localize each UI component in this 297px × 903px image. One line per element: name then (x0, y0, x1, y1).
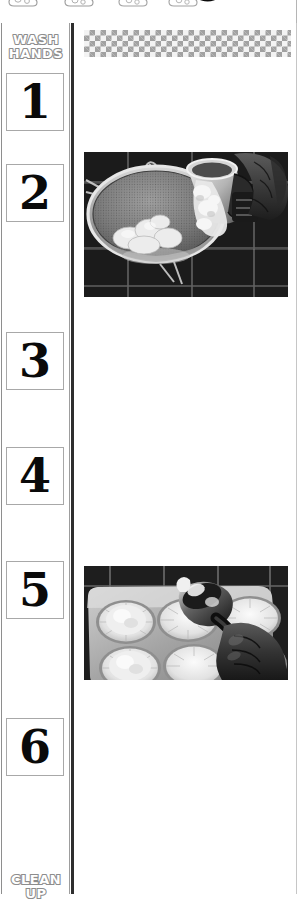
step-number-column: WASH WASH HANDS HANDS WASH HANDS 1 2 3 4… (0, 23, 72, 894)
svg-text:WASH: WASH (13, 32, 59, 47)
column-divider-hairline (69, 23, 70, 894)
step-number-6: 6 (7, 719, 63, 775)
bubble-shape-row: 5 (0, 0, 297, 22)
step-number-3: 3 (7, 333, 63, 389)
step-box-4[interactable]: 4 (6, 447, 64, 505)
soap-bubble-icon (116, 0, 150, 16)
soap-bubble-icon (62, 0, 96, 16)
step-box-5[interactable]: 5 (6, 561, 64, 619)
clean-up-heading: CLEAN CLEAN UP UP CLEAN UP (3, 869, 69, 903)
step-number-5: 5 (7, 562, 63, 618)
step-box-1[interactable]: 1 (6, 73, 64, 131)
step-content-column: Pouring from a measuring cup into a wire… (74, 23, 297, 894)
svg-text:UP: UP (25, 886, 46, 901)
top-cut-off-strip: 5 (0, 0, 297, 24)
top-strip-edge (296, 0, 297, 23)
svg-text:CLEAN: CLEAN (11, 872, 61, 887)
step-box-6[interactable]: 6 (6, 718, 64, 776)
top-step-number-cut-off: 5 (192, 0, 223, 10)
soap-bubble-icon (6, 0, 40, 16)
step-number-4: 4 (7, 448, 63, 504)
photo-strainer-step-2: Pouring from a measuring cup into a wire… (84, 152, 288, 297)
checkerboard-tile-band (84, 30, 291, 57)
recipe-board: WASH WASH HANDS HANDS WASH HANDS 1 2 3 4… (0, 23, 297, 894)
step-number-2: 2 (7, 165, 63, 221)
wash-hands-heading: WASH WASH HANDS HANDS WASH HANDS (3, 29, 69, 63)
photo-muffin-tin-step-5: Hand using an ice cream scoop to fill a … (84, 566, 288, 680)
step-box-3[interactable]: 3 (6, 332, 64, 390)
step-box-2[interactable]: 2 (6, 164, 64, 222)
step-number-1: 1 (7, 74, 63, 130)
right-column-edge (296, 23, 297, 894)
svg-text:HANDS: HANDS (9, 46, 63, 61)
